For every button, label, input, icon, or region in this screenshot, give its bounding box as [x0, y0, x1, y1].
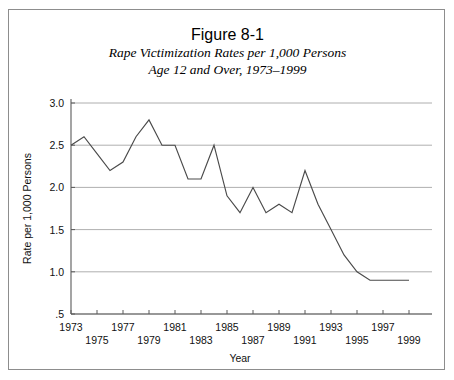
axis-tick-marks — [71, 103, 409, 314]
x-tick-label: 1991 — [293, 334, 317, 346]
gridlines — [71, 103, 432, 314]
y-tick-label: 2.0 — [49, 181, 64, 193]
x-tick-label: 1989 — [267, 321, 291, 333]
x-axis-tick-labels: 1973197719811985198919931997197519791983… — [59, 321, 421, 346]
y-tick-label: 2.5 — [49, 139, 64, 151]
x-tick-label: 1985 — [215, 321, 239, 333]
y-tick-label: .5 — [55, 308, 64, 320]
x-tick-label: 1975 — [85, 334, 109, 346]
y-tick-label: 1.5 — [49, 224, 64, 236]
line-chart: 3.02.52.01.51.0.5 1973197719811985198919… — [9, 10, 446, 371]
x-tick-label: 1997 — [371, 321, 395, 333]
x-axis-title: Year — [229, 352, 251, 364]
y-tick-label: 1.0 — [49, 266, 64, 278]
y-tick-label: 3.0 — [49, 97, 64, 109]
x-tick-label: 1995 — [345, 334, 369, 346]
figure-frame: Figure 8-1 Rape Victimization Rates per … — [8, 9, 445, 370]
x-tick-label: 1987 — [241, 334, 265, 346]
y-axis-title: Rate per 1,000 Persons — [21, 153, 33, 264]
data-series-line — [71, 120, 409, 280]
x-tick-label: 1981 — [163, 321, 187, 333]
x-tick-label: 1973 — [59, 321, 83, 333]
x-tick-label: 1983 — [189, 334, 213, 346]
x-tick-label: 1993 — [319, 321, 343, 333]
x-tick-label: 1979 — [137, 334, 161, 346]
x-tick-label: 1977 — [111, 321, 135, 333]
chart-plot-area: 3.02.52.01.51.0.5 1973197719811985198919… — [9, 10, 446, 371]
x-tick-label: 1999 — [397, 334, 421, 346]
y-axis-tick-labels: 3.02.52.01.51.0.5 — [49, 97, 64, 320]
